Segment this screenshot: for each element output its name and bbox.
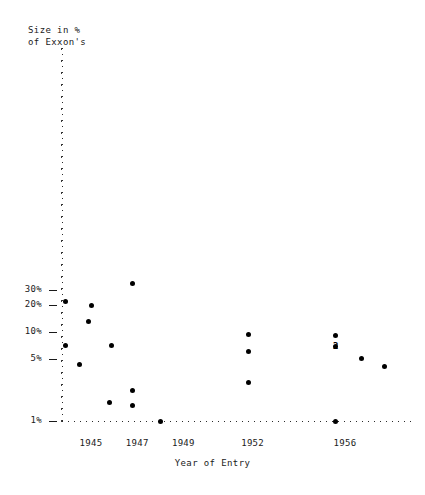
data-point xyxy=(333,333,338,338)
y-axis-dot xyxy=(62,180,63,181)
y-tick-label-30: 30% xyxy=(0,284,42,294)
x-axis-dot xyxy=(308,421,309,422)
data-point xyxy=(130,403,135,408)
y-axis-dot xyxy=(62,168,63,169)
y-axis-minor-tick xyxy=(61,228,62,230)
x-axis-dot xyxy=(386,421,387,422)
x-axis-dot xyxy=(326,421,327,422)
y-tick-mark-30 xyxy=(49,290,57,291)
y-axis-dot xyxy=(62,390,63,391)
y-axis-dot xyxy=(62,126,63,127)
x-axis-dot xyxy=(350,421,351,422)
data-point xyxy=(130,388,135,393)
y-axis-minor-tick xyxy=(61,84,62,86)
y-axis-dot xyxy=(62,360,63,361)
x-axis-dot xyxy=(362,421,363,422)
data-point xyxy=(382,364,387,369)
y-axis-minor-tick xyxy=(61,108,62,110)
x-axis-dot xyxy=(86,421,87,422)
x-axis-dot xyxy=(68,421,69,422)
y-axis-minor-tick xyxy=(61,48,62,50)
y-axis-minor-tick xyxy=(61,240,62,242)
y-axis-dot xyxy=(62,306,63,307)
x-axis-dot xyxy=(410,421,411,422)
x-axis-dot xyxy=(398,421,399,422)
y-axis-minor-tick xyxy=(61,312,62,314)
y-axis-dot xyxy=(62,414,63,415)
y-axis-title-line2: of Exxon's xyxy=(28,37,86,47)
y-axis-minor-tick xyxy=(61,264,62,266)
x-axis-dot xyxy=(260,421,261,422)
x-axis-title: Year of Entry xyxy=(0,458,425,468)
data-point xyxy=(130,281,135,286)
y-tick-mark-5 xyxy=(49,359,57,360)
x-axis-dot xyxy=(62,421,63,422)
y-axis-dot xyxy=(62,78,63,79)
x-axis-dot xyxy=(122,421,123,422)
y-tick-mark-10 xyxy=(49,332,57,333)
y-axis-minor-tick xyxy=(61,156,62,158)
x-axis-dot xyxy=(374,421,375,422)
y-axis-dot xyxy=(62,102,63,103)
y-tick-label-1: 1% xyxy=(0,415,42,425)
y-axis-minor-tick xyxy=(61,384,62,386)
y-axis-dot xyxy=(62,150,63,151)
x-axis-dot xyxy=(236,421,237,422)
x-axis-dot xyxy=(176,421,177,422)
y-axis-minor-tick xyxy=(61,96,62,98)
y-axis-minor-tick xyxy=(61,192,62,194)
y-axis-dot xyxy=(62,186,63,187)
y-axis-dot xyxy=(62,90,63,91)
x-axis-dot xyxy=(164,421,165,422)
x-axis-dot xyxy=(170,421,171,422)
data-point xyxy=(158,419,163,424)
x-axis-dot xyxy=(254,421,255,422)
y-axis-minor-tick xyxy=(61,144,62,146)
y-axis-dot xyxy=(62,384,63,385)
y-axis-minor-tick xyxy=(61,72,62,74)
x-axis-dot xyxy=(290,421,291,422)
x-axis-dot xyxy=(242,421,243,422)
y-axis-dot xyxy=(62,210,63,211)
y-axis-minor-tick xyxy=(61,120,62,122)
y-axis-dot xyxy=(62,228,63,229)
y-axis-dot xyxy=(62,348,63,349)
y-axis-dot xyxy=(62,270,63,271)
y-axis-dot xyxy=(62,240,63,241)
y-axis-minor-tick xyxy=(61,396,62,398)
y-axis-dot xyxy=(62,324,63,325)
data-point xyxy=(246,380,251,385)
y-tick-label-5: 5% xyxy=(0,353,42,363)
y-axis-dot xyxy=(62,84,63,85)
x-axis-dot xyxy=(314,421,315,422)
y-axis-dot xyxy=(62,198,63,199)
y-axis-minor-tick xyxy=(61,288,62,290)
y-axis-dot xyxy=(62,96,63,97)
y-axis-dot xyxy=(62,192,63,193)
y-axis-dot xyxy=(62,372,63,373)
x-axis-dot xyxy=(92,421,93,422)
x-axis-dot xyxy=(266,421,267,422)
x-axis-dot xyxy=(230,421,231,422)
y-axis-dot xyxy=(62,408,63,409)
y-axis-dot xyxy=(62,330,63,331)
y-axis-dot xyxy=(62,318,63,319)
y-axis-minor-tick xyxy=(61,216,62,218)
y-axis-dot xyxy=(62,252,63,253)
y-axis-dot xyxy=(62,132,63,133)
x-axis-dot xyxy=(116,421,117,422)
scatter-plot-figure: Size in %of Exxon's Year of Entry 30%20%… xyxy=(0,0,425,495)
x-tick-label-1952: 1952 xyxy=(229,438,277,448)
data-point xyxy=(359,356,364,361)
y-axis-dot xyxy=(62,222,63,223)
y-axis-minor-tick xyxy=(61,324,62,326)
y-tick-label-20: 20% xyxy=(0,299,42,309)
y-axis-dot xyxy=(62,114,63,115)
y-axis-dot xyxy=(62,108,63,109)
y-axis-minor-tick xyxy=(61,336,62,338)
x-axis-dot xyxy=(212,421,213,422)
y-axis-minor-tick xyxy=(61,180,62,182)
y-axis-dot xyxy=(62,234,63,235)
x-tick-label-1949: 1949 xyxy=(159,438,207,448)
x-axis-dot xyxy=(182,421,183,422)
